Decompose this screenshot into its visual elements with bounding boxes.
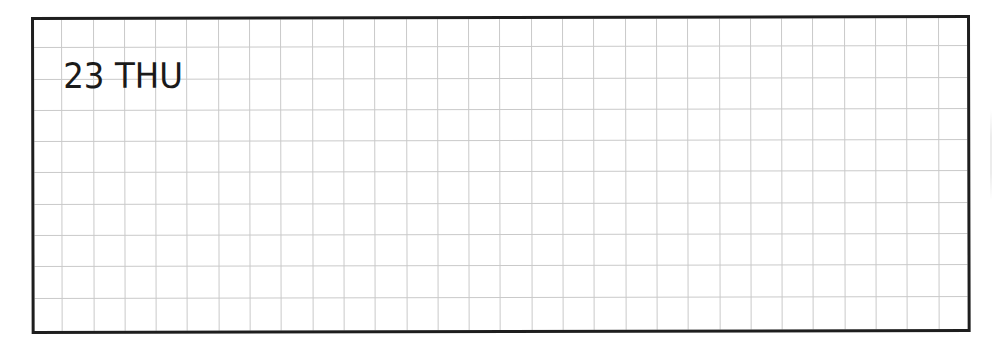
- daily-entry-box[interactable]: 23 THU: [31, 15, 971, 334]
- date-heading: 23 THU: [63, 59, 183, 94]
- planner-page: 23 THU: [0, 0, 994, 363]
- page-edge-shadow: [990, 110, 992, 200]
